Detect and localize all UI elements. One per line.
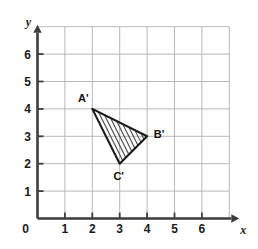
y-tick-label-3: 3	[24, 130, 31, 144]
vertex-label-B-prime: B'	[154, 128, 165, 140]
vertex-label-A-prime: A'	[78, 92, 89, 104]
y-tick-label-4: 4	[24, 102, 31, 116]
tick-labels: 0123456123456	[22, 48, 205, 236]
x-tick-label-5: 5	[171, 222, 178, 236]
x-tick-label-0: 0	[22, 222, 29, 236]
axis-name-labels: xy	[24, 15, 246, 237]
y-tick-label-5: 5	[24, 75, 31, 89]
x-tick-label-4: 4	[144, 222, 151, 236]
x-tick-label-6: 6	[199, 222, 206, 236]
y-tick-label-6: 6	[24, 48, 31, 62]
grid-lines	[38, 27, 230, 219]
coordinate-plane-svg: 0123456123456 A'B'C' xy	[0, 0, 258, 249]
x-tick-label-1: 1	[62, 222, 69, 236]
x-axis-name: x	[239, 223, 246, 237]
coordinate-grid-figure: 0123456123456 A'B'C' xy	[0, 0, 258, 249]
x-tick-label-2: 2	[89, 222, 96, 236]
x-tick-label-3: 3	[116, 222, 123, 236]
y-tick-label-1: 1	[24, 185, 31, 199]
y-tick-label-2: 2	[24, 157, 31, 171]
vertex-label-C-prime: C'	[113, 170, 124, 182]
y-axis-name: y	[24, 15, 32, 29]
